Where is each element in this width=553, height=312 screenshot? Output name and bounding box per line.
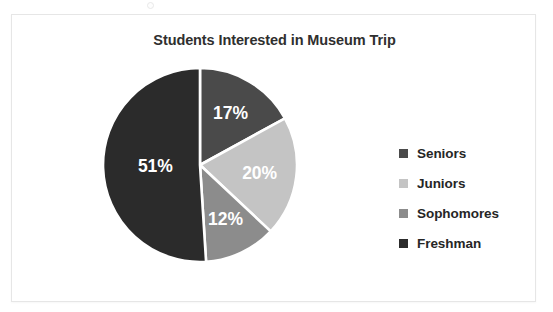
- pie-slice-label: 12%: [208, 209, 243, 229]
- pie-plot-area: 17%20%12%51%: [100, 65, 300, 265]
- legend-item[interactable]: Freshman: [386, 228, 536, 258]
- pie-slice-label: 51%: [138, 156, 173, 176]
- chart-legend: SeniorsJuniorsSophomoresFreshman: [386, 138, 536, 258]
- scan-artifact-band: [0, 0, 553, 13]
- legend-item-label: Sophomores: [417, 206, 499, 221]
- chart-screenshot: Students Interested in Museum Trip 17%20…: [0, 0, 553, 312]
- legend-item[interactable]: Juniors: [386, 168, 536, 198]
- legend-item-label: Freshman: [417, 236, 481, 251]
- legend-item-label: Juniors: [417, 176, 465, 191]
- legend-swatch-icon: [399, 149, 408, 158]
- pie-slice-label: 20%: [242, 163, 277, 183]
- legend-swatch-icon: [399, 209, 408, 218]
- legend-item[interactable]: Sophomores: [386, 198, 536, 228]
- legend-item-label: Seniors: [417, 146, 466, 161]
- chart-title: Students Interested in Museum Trip: [12, 32, 537, 48]
- pie-chart: 17%20%12%51%: [100, 65, 300, 265]
- chart-frame: Students Interested in Museum Trip 17%20…: [11, 14, 536, 302]
- scan-speck: [147, 2, 154, 9]
- pie-slice-label: 17%: [213, 103, 248, 123]
- legend-item[interactable]: Seniors: [386, 138, 536, 168]
- legend-swatch-icon: [399, 179, 408, 188]
- legend-swatch-icon: [399, 239, 408, 248]
